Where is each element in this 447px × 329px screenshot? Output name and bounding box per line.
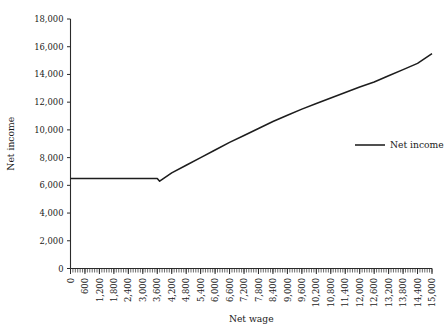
y-tick-label-12000: 12,000 bbox=[34, 97, 63, 107]
legend-label-1: Net income bbox=[390, 139, 444, 150]
x-tick-label-7800: 7,800 bbox=[254, 278, 264, 302]
series-line-1 bbox=[71, 54, 433, 182]
y-tick-label-10000: 10,000 bbox=[34, 125, 63, 135]
y-tick-label-14000: 14,000 bbox=[34, 69, 63, 79]
x-tick-label-3600: 3,600 bbox=[152, 278, 162, 302]
y-tick-label-6000: 6,000 bbox=[40, 180, 64, 190]
y-tick-label-0: 0 bbox=[58, 264, 63, 274]
y-tick-label-18000: 18,000 bbox=[34, 14, 63, 24]
y-tick-label-16000: 16,000 bbox=[34, 42, 63, 52]
x-tick-label-3000: 3,000 bbox=[138, 278, 148, 302]
x-tick-label-13200: 13,200 bbox=[384, 278, 394, 307]
x-tick-label-6000: 6,000 bbox=[210, 278, 220, 302]
x-tick-label-14400: 14,400 bbox=[413, 278, 423, 307]
x-tick-label-600: 600 bbox=[80, 278, 90, 294]
x-tick-label-10800: 10,800 bbox=[326, 278, 336, 307]
x-tick-label-10200: 10,200 bbox=[311, 278, 321, 307]
x-tick-label-1200: 1,200 bbox=[95, 278, 105, 302]
y-axis-title: Net income bbox=[5, 117, 16, 171]
x-tick-label-9000: 9,000 bbox=[283, 278, 293, 302]
x-tick-label-12600: 12,600 bbox=[369, 278, 379, 307]
x-tick-label-13800: 13,800 bbox=[398, 278, 408, 307]
x-axis-title: Net wage bbox=[229, 313, 274, 324]
x-tick-label-0: 0 bbox=[66, 278, 76, 283]
x-tick-label-5400: 5,400 bbox=[196, 278, 206, 302]
line-chart: 02,0004,0006,0008,00010,00012,00014,0001… bbox=[0, 0, 447, 329]
y-tick-label-4000: 4,000 bbox=[40, 208, 64, 218]
x-tick-label-4800: 4,800 bbox=[181, 278, 191, 302]
x-tick-label-4200: 4,200 bbox=[167, 278, 177, 302]
x-tick-label-8400: 8,400 bbox=[268, 278, 278, 302]
x-tick-label-7200: 7,200 bbox=[239, 278, 249, 302]
x-tick-label-1800: 1,800 bbox=[109, 278, 119, 302]
x-tick-label-9600: 9,600 bbox=[297, 278, 307, 302]
y-tick-label-8000: 8,000 bbox=[40, 153, 64, 163]
x-tick-label-12000: 12,000 bbox=[355, 278, 365, 307]
x-tick-label-15000: 15,000 bbox=[427, 278, 437, 307]
y-tick-label-2000: 2,000 bbox=[40, 236, 64, 246]
chart-canvas: 02,0004,0006,0008,00010,00012,00014,0001… bbox=[0, 0, 447, 329]
x-tick-label-11400: 11,400 bbox=[340, 278, 350, 307]
x-tick-label-2400: 2,400 bbox=[123, 278, 133, 302]
x-tick-label-6600: 6,600 bbox=[225, 278, 235, 302]
